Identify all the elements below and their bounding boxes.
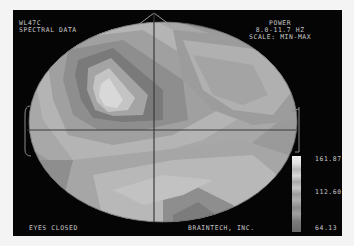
scale-mode: SCALE: MIN-MAX [249, 33, 311, 41]
subject-label: WL47C SPECTRAL DATA [19, 20, 77, 34]
topographic-map-display: WL47C SPECTRAL DATA POWER 8.0-11.7 HZ SC… [13, 10, 342, 236]
scale-mid: 112.60 [315, 189, 342, 196]
color-scale-bar [292, 156, 301, 232]
company-label: BRAINTECH, INC. [188, 225, 255, 232]
measurement-info: POWER 8.0-11.7 HZ SCALE: MIN-MAX [249, 20, 311, 41]
scale-min: 64.13 [315, 225, 337, 232]
scale-max: 161.87 [315, 156, 342, 163]
condition-label: EYES CLOSED [29, 225, 78, 232]
data-type: SPECTRAL DATA [19, 26, 77, 34]
